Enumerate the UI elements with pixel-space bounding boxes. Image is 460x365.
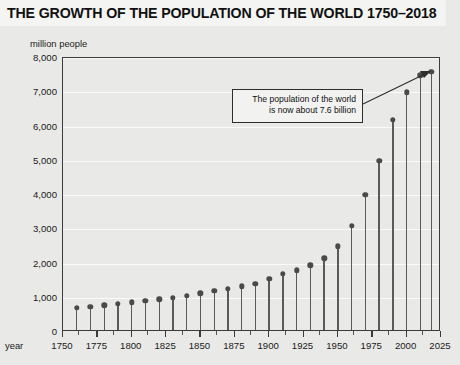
annotation-callout: The population of the world is now about… <box>232 89 363 123</box>
data-point-stem <box>227 287 228 330</box>
x-axis-minor-tick <box>353 331 354 335</box>
data-point-stem <box>186 294 187 330</box>
data-point-marker <box>102 303 107 308</box>
x-axis-tick-label: 1775 <box>86 340 107 351</box>
data-point-marker <box>225 286 230 291</box>
data-point-stem <box>131 300 132 330</box>
x-axis-tick <box>303 331 304 337</box>
x-axis-tick <box>199 331 200 337</box>
chart-page: THE GROWTH OF THE POPULATION OF THE WORL… <box>0 0 460 365</box>
y-axis-tick-label: 7,000 <box>5 86 57 97</box>
x-axis-minor-tick <box>319 331 320 335</box>
x-axis-minor-tick <box>182 331 183 335</box>
gridline <box>63 298 439 299</box>
x-axis-tick-label: 1975 <box>361 340 382 351</box>
y-axis-tick-label: 5,000 <box>5 154 57 165</box>
data-point-marker <box>115 301 120 306</box>
x-axis-tick-label: 2000 <box>395 340 416 351</box>
data-point-stem <box>296 268 297 330</box>
x-axis-minor-tick <box>250 331 251 335</box>
data-point-stem <box>337 244 338 330</box>
y-axis-tick-label: 3,000 <box>5 223 57 234</box>
data-point-marker <box>308 263 313 268</box>
data-point-marker <box>129 299 134 304</box>
data-point-stem <box>268 277 269 330</box>
data-point-stem <box>145 299 146 330</box>
gridline <box>63 195 439 196</box>
data-point-stem <box>392 118 393 330</box>
data-point-stem <box>241 284 242 330</box>
x-axis: 1750177518001825185018751900192519501975… <box>62 331 440 365</box>
x-axis-tick <box>371 331 372 337</box>
x-axis-minor-tick <box>216 331 217 335</box>
data-point-marker <box>239 284 244 289</box>
x-axis-tick-label: 1950 <box>326 340 347 351</box>
x-axis-tick <box>337 331 338 337</box>
x-axis-minor-tick <box>285 331 286 335</box>
data-point-marker <box>404 90 409 95</box>
x-axis-tick <box>234 331 235 337</box>
x-axis-minor-tick <box>113 331 114 335</box>
y-axis-tick-label: 8,000 <box>5 52 57 63</box>
x-axis-tick-label: 1825 <box>154 340 175 351</box>
annotation-line-1: The population of the world <box>239 94 356 105</box>
data-point-stem <box>159 297 160 330</box>
data-point-marker <box>280 271 285 276</box>
data-point-marker <box>88 304 93 309</box>
data-point-stem <box>420 73 421 330</box>
data-point-marker <box>170 295 175 300</box>
x-axis-tick <box>440 331 441 337</box>
data-point-stem <box>200 291 201 330</box>
y-axis-tick-label: 0 <box>5 326 57 337</box>
y-axis-unit-label: million people <box>30 38 87 49</box>
x-axis-tick <box>165 331 166 337</box>
data-point-marker <box>143 298 148 303</box>
data-point-stem <box>431 70 432 330</box>
data-point-marker <box>157 296 162 301</box>
data-point-marker <box>349 223 354 228</box>
data-point-marker <box>211 288 216 293</box>
data-point-stem <box>351 224 352 330</box>
x-axis-tick-label: 1900 <box>258 340 279 351</box>
data-point-marker <box>335 244 340 249</box>
data-point-marker <box>253 281 258 286</box>
data-point-marker <box>294 268 299 273</box>
y-axis-tick-labels: 01,0002,0003,0004,0005,0006,0007,0008,00… <box>0 57 57 331</box>
data-point-stem <box>310 263 311 330</box>
data-point-marker <box>74 305 79 310</box>
x-axis-caption: year <box>5 340 23 351</box>
x-axis-tick <box>406 331 407 337</box>
y-axis-tick-label: 4,000 <box>5 189 57 200</box>
x-axis-tick-label: 1800 <box>120 340 141 351</box>
data-point-stem <box>406 90 407 330</box>
x-axis-tick-label: 1925 <box>292 340 313 351</box>
data-point-stem <box>323 256 324 330</box>
x-axis-tick-label: 1750 <box>51 340 72 351</box>
x-axis-tick-label: 2025 <box>429 340 450 351</box>
data-point-marker <box>429 69 434 74</box>
data-point-marker <box>198 291 203 296</box>
x-axis-tick <box>131 331 132 337</box>
x-axis-tick <box>62 331 63 337</box>
gridline <box>63 229 439 230</box>
data-point-stem <box>378 159 379 330</box>
data-point-marker <box>418 72 423 77</box>
data-point-stem <box>172 296 173 330</box>
x-axis-minor-tick <box>388 331 389 335</box>
data-point-marker <box>321 256 326 261</box>
title-bar: THE GROWTH OF THE POPULATION OF THE WORL… <box>0 0 446 26</box>
annotation-line-2: is now about 7.6 billion <box>239 105 356 116</box>
y-axis-tick-label: 6,000 <box>5 120 57 131</box>
gridline <box>63 58 439 59</box>
gridline <box>63 264 439 265</box>
data-point-stem <box>365 193 366 330</box>
x-axis-minor-tick <box>78 331 79 335</box>
x-axis-tick <box>268 331 269 337</box>
x-axis-minor-tick <box>147 331 148 335</box>
data-point-marker <box>376 158 381 163</box>
data-point-stem <box>282 272 283 330</box>
y-axis-tick-label: 1,000 <box>5 291 57 302</box>
gridline <box>63 127 439 128</box>
x-axis-tick-label: 1850 <box>189 340 210 351</box>
data-point-marker <box>363 192 368 197</box>
